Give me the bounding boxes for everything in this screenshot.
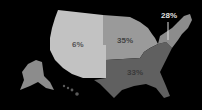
region-hawaii bbox=[63, 85, 79, 96]
south-value-label: 33% bbox=[127, 69, 143, 77]
midwest-value-label: 35% bbox=[117, 37, 133, 45]
west-value-label: 6% bbox=[72, 41, 84, 49]
northeast-value-label: 28% bbox=[161, 12, 177, 20]
region-alaska bbox=[20, 60, 54, 90]
